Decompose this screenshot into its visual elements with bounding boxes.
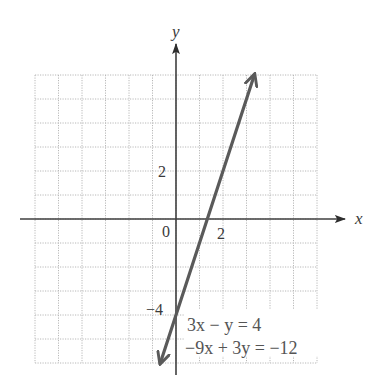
y-axis-label: y <box>170 22 180 41</box>
x-axis-label: x <box>354 209 363 228</box>
equation-label-1: 3x − y = 4 <box>187 315 261 335</box>
x-tick-label-2: 2 <box>217 225 225 242</box>
equation-label-2: −9x + 3y = −12 <box>185 338 298 358</box>
coordinate-plane: y x 0 2 2 −4 3x − y = 4 −9x + 3y = −12 <box>0 0 388 386</box>
y-tick-label-2: 2 <box>158 163 166 180</box>
origin-label: 0 <box>162 223 170 240</box>
y-tick-label-neg4: −4 <box>146 301 163 318</box>
